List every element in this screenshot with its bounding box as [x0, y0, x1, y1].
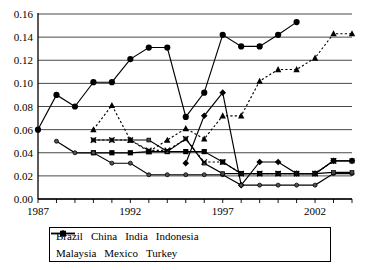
x-axis-tick: 1997	[212, 205, 235, 217]
legend-item-malaysia[interactable]: Malaysia	[53, 248, 96, 259]
legend-label: India	[125, 231, 148, 242]
legend-item-india[interactable]: India	[122, 231, 148, 242]
series-indonesia	[92, 137, 354, 175]
legend-item-china[interactable]: China	[88, 231, 117, 242]
chart-legend: BrazilChinaIndiaIndonesia MalaysiaMexico…	[49, 227, 331, 262]
y-axis-tick: 0.00	[14, 193, 34, 205]
y-axis-tick: 0.12	[14, 54, 33, 66]
legend-label: Malaysia	[56, 248, 96, 259]
x-axis-tick: 1992	[119, 205, 141, 217]
y-axis-tick: 0.14	[14, 31, 34, 43]
legend-item-turkey[interactable]: Turkey	[143, 248, 177, 259]
y-axis-tick: 0.02	[14, 170, 33, 182]
legend-item-mexico[interactable]: Mexico	[101, 248, 138, 259]
x-axis-tick: 1987	[27, 205, 50, 217]
legend-label: Turkey	[146, 248, 177, 259]
y-axis-tick: 0.04	[14, 147, 34, 159]
chart-root: 0.000.020.040.060.080.100.120.140.161987…	[0, 0, 377, 270]
legend-item-indonesia[interactable]: Indonesia	[153, 231, 199, 242]
legend-label: Mexico	[104, 248, 138, 259]
legend-row: BrazilChinaIndiaIndonesia	[50, 228, 330, 245]
x-axis-tick: 2002	[304, 205, 326, 217]
y-axis-tick: 0.08	[14, 101, 34, 113]
triangle-marker-icon	[50, 228, 76, 239]
legend-label: China	[91, 231, 117, 242]
y-axis-tick: 0.10	[14, 77, 34, 89]
legend-row: MalaysiaMexicoTurkey	[50, 245, 330, 262]
series-mexico	[35, 19, 300, 133]
legend-label: Indonesia	[156, 231, 199, 242]
y-axis-tick: 0.06	[14, 124, 34, 136]
y-axis-tick: 0.16	[14, 8, 34, 20]
